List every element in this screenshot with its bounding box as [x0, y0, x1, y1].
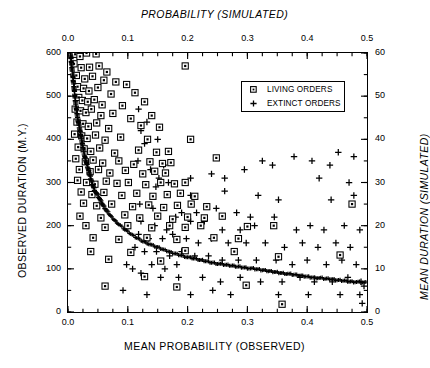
living-order-point — [86, 88, 92, 94]
living-order-point — [147, 159, 153, 165]
living-order-point — [279, 301, 285, 307]
living-order-point — [128, 116, 134, 122]
living-order-point — [94, 203, 100, 209]
living-order-point — [71, 131, 77, 137]
living-order-point — [90, 235, 96, 241]
top-axis-title: PROBABILITY (SIMULATED) — [0, 8, 429, 20]
living-order-point — [85, 99, 91, 105]
x-tick-label-bottom: 0.5 — [361, 317, 374, 327]
extinct-order-point — [323, 261, 329, 267]
living-order-point — [141, 99, 147, 105]
living-order-point — [156, 124, 162, 130]
living-order-point — [213, 155, 219, 161]
extinct-order-point — [251, 222, 257, 228]
living-order-point — [119, 192, 125, 198]
extinct-order-point — [243, 240, 249, 246]
extinct-order-point — [208, 171, 214, 177]
living-order-point — [104, 69, 110, 75]
living-order-point — [177, 190, 183, 196]
living-order-point — [107, 170, 113, 176]
x-tick-label-bottom: 0.4 — [301, 317, 314, 327]
extinct-order-point — [144, 119, 150, 125]
living-order-point — [103, 178, 109, 184]
living-order-point — [243, 282, 249, 288]
legend-item-extinct: EXTINCT ORDERS — [249, 98, 344, 110]
extinct-order-point — [137, 201, 143, 207]
living-order-point — [168, 160, 174, 166]
living-order-point — [118, 134, 124, 140]
living-order-point — [153, 149, 159, 155]
extinct-order-point — [351, 192, 357, 198]
extinct-order-point — [162, 266, 168, 272]
right-axis-title: MEAN DURATION (SIMULATED) — [418, 133, 430, 300]
extinct-order-point — [293, 227, 299, 233]
extinct-order-point — [337, 292, 343, 298]
living-order-point — [158, 258, 164, 264]
living-order-point — [144, 136, 150, 142]
living-order-point — [235, 236, 241, 242]
living-order-point — [78, 65, 84, 71]
living-order-point — [192, 193, 198, 199]
living-order-point — [73, 156, 79, 162]
living-order-point — [95, 84, 101, 90]
extinct-order-point — [141, 248, 147, 254]
extinct-order-point — [262, 240, 268, 246]
living-order-point — [109, 201, 115, 207]
living-order-point — [161, 204, 167, 210]
x-tick-label-top: 0.5 — [361, 33, 374, 43]
living-order-point — [129, 204, 135, 210]
extinct-order-point — [335, 149, 341, 155]
living-order-point — [182, 224, 188, 230]
extinct-order-point — [178, 210, 184, 216]
living-order-point — [275, 254, 281, 260]
living-order-point — [182, 63, 188, 69]
living-order-point — [100, 160, 106, 166]
extinct-order-point — [193, 210, 199, 216]
extinct-order-point — [174, 261, 180, 267]
extinct-order-point — [221, 188, 227, 194]
extinct-order-point — [307, 222, 313, 228]
living-order-point — [119, 103, 125, 109]
living-order-point — [96, 63, 102, 69]
extinct-order-point — [129, 266, 135, 272]
extinct-order-point — [217, 279, 223, 285]
x-tick-label-bottom: 0.0 — [62, 317, 75, 327]
extinct-order-point — [149, 261, 155, 267]
living-order-point — [110, 110, 116, 116]
y-tick-label-left: 300 — [46, 177, 61, 187]
x-tick-label-top: 0.2 — [181, 33, 194, 43]
extinct-order-point — [144, 292, 150, 298]
living-order-point — [101, 189, 107, 195]
living-order-point — [150, 193, 156, 199]
living-order-point — [164, 191, 170, 197]
y-tick-label-right: 10 — [375, 263, 385, 273]
living-order-point — [174, 284, 180, 290]
extinct-order-point — [257, 279, 263, 285]
extinct-order-point — [305, 292, 311, 298]
living-order-point — [132, 90, 138, 96]
bottom-axis-title: MEAN PROBABILITY (OBSERVED) — [0, 340, 429, 352]
extinct-order-point — [157, 274, 163, 280]
living-order-point — [137, 215, 143, 221]
living-order-point — [155, 213, 161, 219]
living-order-point — [159, 160, 165, 166]
living-order-point — [125, 179, 131, 185]
x-tick-label-top: 0.4 — [301, 33, 314, 43]
y-tick-label-left: 0 — [56, 306, 61, 316]
living-order-point — [244, 223, 250, 229]
living-order-point — [122, 167, 128, 173]
living-order-point — [86, 64, 92, 70]
extinct-order-point — [304, 257, 310, 263]
living-order-point — [97, 145, 103, 151]
extinct-order-point — [341, 222, 347, 228]
living-order-point — [83, 223, 89, 229]
extinct-order-point — [327, 162, 333, 168]
extinct-order-point — [253, 257, 259, 263]
extinct-order-point — [159, 235, 165, 241]
living-order-point — [337, 252, 343, 258]
extinct-order-point — [347, 244, 353, 250]
extinct-order-point — [187, 292, 193, 298]
living-order-point — [185, 214, 191, 220]
extinct-order-point — [221, 175, 227, 181]
extinct-order-point — [299, 240, 305, 246]
